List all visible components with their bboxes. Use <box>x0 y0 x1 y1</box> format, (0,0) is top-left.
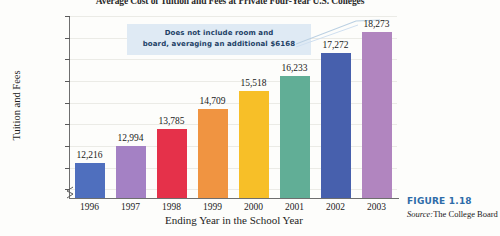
bar-1999[interactable] <box>198 109 228 198</box>
bar-value-label: 16,233 <box>270 63 320 73</box>
y-axis-tick <box>65 189 70 190</box>
chart-title: Average Cost of Tuition and Fees at Priv… <box>55 0 405 6</box>
source-prefix: Source: <box>407 209 433 219</box>
bar-2000[interactable] <box>239 91 269 198</box>
figure-source: Source:The College Board <box>407 209 499 219</box>
bar-value-label: 13,785 <box>147 116 197 126</box>
bar-2001[interactable] <box>280 76 310 198</box>
x-axis-line <box>69 198 399 199</box>
y-axis-tick <box>65 16 70 17</box>
y-axis-tick <box>65 124 70 125</box>
bar-1997[interactable] <box>116 146 146 198</box>
y-axis-tick <box>65 103 70 104</box>
figure-caption: FIGURE 1.18 Source:The College Board <box>407 196 499 219</box>
callout-line-2: board, averaging an additional $6168 <box>143 40 296 48</box>
callout-annotation: Does not include room and board, averagi… <box>127 24 311 55</box>
y-axis-tick <box>65 59 70 60</box>
y-axis-tick <box>65 81 70 82</box>
bar-1998[interactable] <box>157 129 187 198</box>
bar-2002[interactable] <box>321 53 351 198</box>
callout-line-1: Does not include room and <box>165 29 274 37</box>
y-axis-tick <box>65 168 70 169</box>
bar-1996[interactable] <box>75 163 105 198</box>
y-axis-tick <box>65 38 70 39</box>
x-axis-title: Ending Year in the School Year <box>69 214 399 226</box>
bar-value-label: 12,216 <box>65 150 115 160</box>
bar-2003[interactable] <box>362 32 392 198</box>
x-axis-tick-label: 2003 <box>352 202 402 212</box>
gridline <box>69 16 397 17</box>
figure-container: Average Cost of Tuition and Fees at Priv… <box>0 0 500 236</box>
bar-value-label: 17,272 <box>311 40 361 50</box>
y-axis-title: Tuition and Fees <box>11 46 22 166</box>
bar-value-label: 18,273 <box>352 19 402 29</box>
bar-value-label: 14,709 <box>188 96 238 106</box>
bar-value-label: 15,518 <box>229 78 279 88</box>
bar-value-label: 12,994 <box>106 133 156 143</box>
figure-number: FIGURE 1.18 <box>407 196 499 206</box>
source-text: The College Board <box>433 209 498 219</box>
y-axis-tick <box>65 146 70 147</box>
